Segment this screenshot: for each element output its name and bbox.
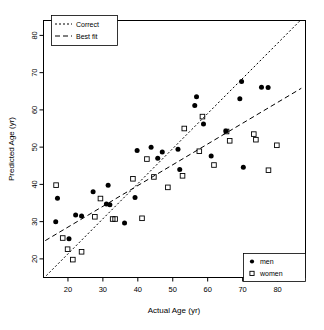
data-point-men xyxy=(177,167,182,172)
data-point-men xyxy=(73,212,78,217)
data-point-men xyxy=(91,189,96,194)
data-point-men xyxy=(223,129,228,134)
data-point-men xyxy=(209,154,214,159)
data-point-women xyxy=(254,137,259,142)
data-point-women xyxy=(275,143,280,148)
data-point-women xyxy=(98,196,103,201)
plot-canvas: 20304050607080 20304050607080 Actual Age… xyxy=(0,0,324,330)
legend-groups-box xyxy=(244,254,306,282)
x-tick-label: 60 xyxy=(204,285,212,294)
data-point-women xyxy=(93,214,98,219)
x-tick-label: 70 xyxy=(238,285,246,294)
data-point-women xyxy=(212,163,217,168)
data-point-women xyxy=(166,185,171,190)
data-point-men xyxy=(155,156,160,161)
y-tick-label: 80 xyxy=(30,31,39,39)
data-point-women xyxy=(227,139,232,144)
data-point-men xyxy=(149,145,154,150)
legend-line-styles-box xyxy=(52,16,118,46)
legend-label-correct: Correct xyxy=(76,21,99,28)
legend-label-men: men xyxy=(260,258,274,265)
legend-label-women: women xyxy=(259,270,283,277)
legend-groups[interactable]: men women xyxy=(244,254,306,282)
series-women-markers xyxy=(54,114,279,262)
data-point-women xyxy=(60,236,65,241)
data-point-women xyxy=(65,247,70,252)
data-point-women xyxy=(182,126,187,131)
x-tick-label: 80 xyxy=(273,285,281,294)
scatter-plot-figure: 20304050607080 20304050607080 Actual Age… xyxy=(0,0,324,330)
data-point-men xyxy=(241,165,246,170)
data-point-men xyxy=(239,79,244,84)
data-point-women xyxy=(54,183,59,188)
data-point-men xyxy=(266,85,271,90)
y-axis-ticks xyxy=(40,35,44,258)
data-point-men xyxy=(79,214,84,219)
y-tick-label: 60 xyxy=(30,106,39,114)
y-axis-tick-labels: 20304050607080 xyxy=(30,31,39,263)
x-tick-label: 30 xyxy=(99,285,107,294)
data-point-men xyxy=(192,103,197,108)
data-point-men xyxy=(237,96,242,101)
data-point-men xyxy=(122,221,127,226)
reference-line-best-fit xyxy=(45,88,301,240)
data-point-women xyxy=(71,257,76,262)
data-point-men xyxy=(53,219,58,224)
data-point-women xyxy=(79,250,84,255)
data-point-women xyxy=(251,132,256,137)
x-tick-label: 50 xyxy=(169,285,177,294)
data-point-men xyxy=(106,183,111,188)
data-point-women xyxy=(197,149,202,154)
data-point-women xyxy=(266,168,271,173)
x-tick-label: 40 xyxy=(134,285,142,294)
x-axis-tick-labels: 20304050607080 xyxy=(64,285,282,294)
x-tick-label: 20 xyxy=(64,285,72,294)
series-men-markers xyxy=(53,79,270,241)
data-point-men xyxy=(107,202,112,207)
y-tick-label: 20 xyxy=(30,255,39,263)
data-point-men xyxy=(67,236,72,241)
data-point-men xyxy=(259,85,264,90)
y-tick-label: 70 xyxy=(30,68,39,76)
legend-swatch-men-icon xyxy=(250,259,254,263)
x-axis-title: Actual Age (yr) xyxy=(148,306,201,315)
data-point-men xyxy=(135,148,140,153)
data-point-women xyxy=(145,157,150,162)
data-point-women xyxy=(140,216,145,221)
data-point-men xyxy=(55,196,60,201)
y-tick-label: 30 xyxy=(30,217,39,225)
data-point-men xyxy=(160,149,165,154)
y-axis-title: Predicted Age (yr) xyxy=(7,117,16,181)
data-point-men xyxy=(133,195,138,200)
data-point-women xyxy=(180,174,185,179)
reference-lines xyxy=(45,21,301,276)
reference-line-correct xyxy=(46,21,300,276)
y-tick-label: 50 xyxy=(30,143,39,151)
y-tick-label: 40 xyxy=(30,180,39,188)
legend-label-best-fit: Best fit xyxy=(76,33,97,40)
data-point-men xyxy=(175,147,180,152)
data-point-women xyxy=(131,176,136,181)
data-point-men xyxy=(201,122,206,127)
data-point-men xyxy=(194,94,199,99)
legend-line-styles[interactable]: Correct Best fit xyxy=(52,16,118,46)
